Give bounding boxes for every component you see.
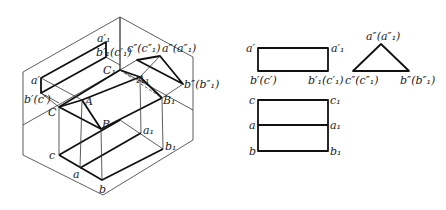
w-plane-projection — [120, 56, 183, 84]
front-label-b1-prime: b′₁(c′₁) — [308, 74, 344, 87]
top-label-c1: c₁ — [330, 94, 341, 107]
isometric-labels: a′₁ b′₁(c′₁) c″(c″₁) a″(a″₁) C₁ A₁ b″(b″… — [24, 32, 219, 196]
top-label-a: a — [249, 119, 256, 132]
side-label-right: b″(b″₁) — [400, 74, 435, 87]
label-a-prime: a′ — [31, 74, 41, 87]
label-A: A — [84, 95, 93, 108]
side-view: a″(a″₁) c″(c″₁) b″(b″₁) — [345, 30, 435, 87]
label-c: c — [49, 149, 55, 162]
front-label-a-prime: a′ — [246, 42, 256, 55]
label-b-prime-c-prime: b′(c′) — [24, 93, 51, 106]
top-label-a1: a₁ — [330, 119, 341, 132]
top-label-b1: b₁ — [330, 145, 341, 158]
top-label-b: b — [249, 145, 256, 158]
label-a-dd: a″(a″₁) — [162, 42, 196, 55]
front-label-a1-prime: a′₁ — [331, 42, 344, 55]
front-view: a′ a′₁ b′(c′) b′₁(c′₁) — [246, 42, 344, 87]
label-a1: a₁ — [143, 124, 154, 137]
label-a1-prime: a′₁ — [97, 32, 110, 45]
label-b-dd: b″(b″₁) — [184, 78, 219, 91]
label-A1: A₁ — [136, 73, 149, 86]
label-C1: C₁ — [103, 64, 116, 77]
label-b1: b₁ — [165, 140, 176, 153]
label-C: C — [48, 106, 57, 119]
side-label-left: c″(c″₁) — [345, 74, 379, 87]
top-view: c c₁ a a₁ b b₁ — [249, 94, 341, 158]
label-b: b — [99, 183, 106, 196]
top-label-c: c — [249, 94, 255, 107]
label-c-dd: c″(c″₁) — [127, 42, 161, 55]
side-label-apex: a″(a″₁) — [366, 30, 400, 43]
label-a: a — [73, 168, 80, 181]
front-label-b-prime: b′(c′) — [250, 74, 277, 87]
prism-projection-diagram: a′₁ b′₁(c′₁) c″(c″₁) a″(a″₁) C₁ A₁ b″(b″… — [0, 0, 446, 210]
label-B1: B₁ — [162, 94, 176, 107]
label-B: B — [101, 118, 110, 131]
